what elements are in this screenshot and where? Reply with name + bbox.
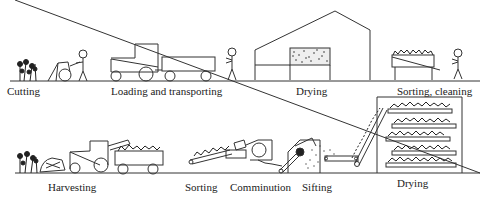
sorting-table-icon — [392, 50, 440, 80]
trailer-icon — [155, 57, 215, 81]
plant-icon — [18, 152, 39, 174]
step-label-cutting: Cutting — [7, 85, 40, 97]
sifter-icon — [288, 138, 358, 173]
step-label-drying-top: Drying — [296, 85, 327, 97]
person-icon — [226, 48, 236, 80]
person-icon — [76, 50, 87, 81]
inclined-conveyor-icon — [352, 108, 387, 167]
trailer-icon — [115, 145, 163, 174]
step-label-harvesting: Harvesting — [48, 181, 96, 193]
harvester-icon — [40, 140, 130, 173]
step-label-sorting: Sorting — [185, 181, 217, 193]
step-label-sifting: Sifting — [302, 181, 332, 193]
step-label-sorting-cleaning: Sorting, cleaning — [397, 85, 472, 97]
tractor-icon — [111, 44, 158, 81]
sorting-conveyor-icon — [189, 140, 246, 164]
step-label-comminution: Comminution — [230, 181, 291, 193]
step-label-loading: Loading and transporting — [111, 85, 222, 97]
step-label-drying-bottom: Drying — [397, 177, 428, 189]
cutter-machine-icon — [48, 62, 80, 81]
process-diagram — [0, 0, 499, 201]
person-icon — [452, 49, 462, 79]
drying-barn-icon — [255, 11, 370, 80]
plant-icon — [18, 60, 38, 82]
